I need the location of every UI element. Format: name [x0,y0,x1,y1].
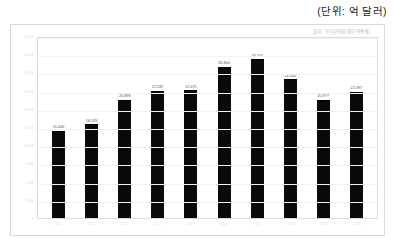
bar-value-label: 22,587 [152,85,164,89]
x-axis-tick: 2016 [207,220,240,232]
gridline [38,111,377,112]
y-axis-tick: 21,000 [24,90,34,94]
y-axis-tick: 9,000 [26,162,35,166]
bar[interactable] [251,59,264,218]
bar-item[interactable]: 24,560 [274,38,307,218]
bar-item[interactable]: 20,898 [108,38,141,218]
bar[interactable] [52,131,65,218]
bar[interactable] [85,124,98,218]
y-axis-tick: 3,000 [26,199,35,203]
gridline [38,38,377,39]
bar-value-label: 16,529 [86,119,98,123]
gridline [38,74,377,75]
x-axis-tick: 2012 [74,220,107,232]
bar-value-label: 26,804 [218,61,230,65]
x-axis-tick: 2014 [141,220,174,232]
y-axis: 30,00027,00024,00021,00018,00015,00012,0… [19,37,36,219]
y-axis-tick: 12,000 [24,144,34,148]
x-axis-tick: 2017 [241,220,274,232]
gridline [38,202,377,203]
bar-item[interactable]: 20,977 [307,38,340,218]
bar[interactable] [284,79,297,218]
bar[interactable] [151,91,164,218]
bar-item[interactable]: 22,587 [141,38,174,218]
bar[interactable] [184,90,197,218]
plot-area: 15,44016,52920,89822,58722,67526,80428,2… [37,37,378,219]
unit-note: (단위: 억 달러) [317,3,387,18]
bar[interactable] [317,100,330,218]
y-axis-tick: 18,000 [24,108,34,112]
bar-series: 15,44016,52920,89822,58722,67526,80428,2… [38,38,377,218]
y-axis-tick: 15,000 [24,126,34,130]
bar[interactable] [218,67,231,218]
plot-wrapper: 30,00027,00024,00021,00018,00015,00012,0… [19,37,378,229]
x-axis-tick: 2019 [307,220,340,232]
gridline [38,184,377,185]
y-axis-tick: 0 [32,217,34,221]
bar-item[interactable]: 26,804 [207,38,240,218]
bar-item[interactable]: 22,397 [340,38,373,218]
gridline [38,147,377,148]
bar-value-label: 20,977 [318,94,330,98]
bar-value-label: 22,397 [351,86,363,90]
y-axis-tick: 30,000 [24,35,34,39]
x-axis-tick: 2011 [41,220,74,232]
gridline [38,56,377,57]
x-axis-tick: 2018 [274,220,307,232]
x-axis: 2011201220132014201520162017201820192020 [37,220,378,232]
bar-item[interactable]: 15,440 [42,38,75,218]
gridline [38,129,377,130]
gridline [38,165,377,166]
gridline [38,93,377,94]
bar-value-label: 22,675 [185,85,197,89]
x-axis-tick: 2015 [174,220,207,232]
bar-item[interactable]: 16,529 [75,38,108,218]
bar[interactable] [118,100,131,218]
bar-item[interactable]: 28,200 [241,38,274,218]
x-axis-tick: 2013 [108,220,141,232]
bar-value-label: 20,898 [119,94,131,98]
bar-item[interactable]: 22,675 [174,38,207,218]
chart-card: 출처: 한국무역협회(무역통계) 30,00027,00024,00021,00… [10,24,385,236]
y-axis-tick: 27,000 [24,53,34,57]
chart-legend: 출처: 한국무역협회(무역통계) [313,28,370,34]
y-axis-tick: 6,000 [26,181,35,185]
x-axis-tick: 2020 [341,220,374,232]
y-axis-tick: 24,000 [24,71,34,75]
